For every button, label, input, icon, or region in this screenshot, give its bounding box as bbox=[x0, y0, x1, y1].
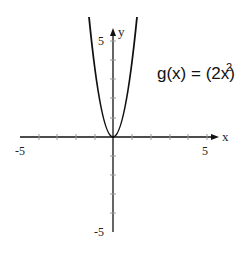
y-max-label: 5 bbox=[98, 34, 104, 48]
y-axis-arrow-icon bbox=[110, 28, 116, 36]
x-axis-label: x bbox=[222, 129, 229, 144]
x-max-label: 5 bbox=[202, 144, 208, 158]
equation-exponent: 2 bbox=[226, 61, 232, 73]
x-axis-arrow-icon bbox=[211, 134, 219, 140]
x-min-label: -5 bbox=[15, 144, 25, 158]
equation-label: g(x) = (2x) bbox=[157, 64, 235, 83]
y-axis-label: y bbox=[118, 24, 125, 39]
graph: -5 5 5 -5 x y g(x) = (2x) 2 bbox=[0, 0, 246, 257]
y-min-label: -5 bbox=[94, 225, 104, 239]
